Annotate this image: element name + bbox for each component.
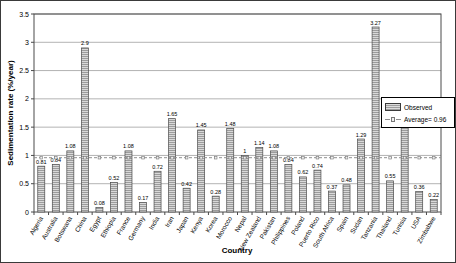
bar-value-label: 3.27 (370, 20, 381, 26)
y-tick-label: 3.5 (19, 11, 29, 18)
average-marker (302, 156, 305, 159)
legend-entry-observed: Observed (385, 101, 451, 113)
average-marker (345, 156, 348, 159)
bar (52, 164, 59, 212)
bar (416, 192, 423, 212)
bar-value-label: 0.55 (385, 173, 396, 179)
x-category-label: Korea (204, 215, 219, 234)
average-marker (389, 156, 392, 159)
bar-value-label: 0.22 (428, 192, 439, 198)
x-category-label: Tunisia (391, 215, 408, 237)
bar-value-label: 0.74 (312, 163, 323, 169)
bar-value-label: 0.62 (298, 169, 309, 175)
y-tick-label: 3 (25, 39, 29, 46)
average-marker (185, 156, 188, 159)
observed-bar-swatch-icon (385, 103, 401, 111)
plot-border (34, 14, 441, 212)
average-marker (55, 156, 58, 159)
x-category-label: China (73, 215, 88, 234)
average-marker (374, 156, 377, 159)
average-marker (331, 156, 334, 159)
average-marker (287, 156, 290, 159)
y-tick-label: 1 (25, 152, 29, 159)
average-marker (316, 156, 319, 159)
average-marker (142, 156, 145, 159)
bar-value-label: 0.08 (94, 200, 105, 206)
y-tick-label: 2 (25, 95, 29, 102)
bar (299, 177, 306, 212)
bar (343, 185, 350, 212)
bar (430, 200, 437, 212)
bar-value-label: 1.08 (268, 143, 279, 149)
bar-value-label: 1.08 (123, 143, 134, 149)
y-tick-label: 2.5 (19, 67, 29, 74)
x-category-label: Iran (163, 215, 175, 229)
average-marker (127, 156, 130, 159)
bar-value-label: 0.81 (36, 159, 47, 165)
average-marker (403, 156, 406, 159)
average-marker (214, 156, 217, 159)
legend-average-label: Average= 0.96 (404, 116, 446, 123)
bar (183, 188, 190, 212)
bar (401, 114, 408, 212)
bar (198, 130, 205, 212)
x-axis-title: Country (222, 246, 253, 255)
bar (96, 207, 103, 212)
bar (38, 166, 45, 212)
y-tick-label: 1.5 (19, 124, 29, 131)
average-marker (273, 156, 276, 159)
average-marker (418, 156, 421, 159)
x-category-label: USA (409, 214, 422, 230)
bar-value-label: 1.45 (196, 122, 207, 128)
average-marker (69, 156, 72, 159)
bar (227, 128, 234, 212)
bar-value-label: 0.36 (414, 184, 425, 190)
bar (67, 151, 74, 212)
bar-value-label: 0.17 (138, 195, 149, 201)
average-marker (98, 156, 101, 159)
bar (285, 164, 292, 212)
plot-area: 00.511.522.533.50.810.841.082.90.080.521… (1, 1, 456, 263)
average-marker (229, 156, 232, 159)
average-marker (243, 156, 246, 159)
bar (212, 196, 219, 212)
y-axis-title: Sedimentation rate (%/year) (6, 60, 15, 165)
bar (140, 202, 147, 212)
bar (358, 139, 365, 212)
legend: Observed Average= 0.96 (381, 97, 455, 128)
legend-observed-label: Observed (404, 104, 432, 111)
average-marker (156, 156, 159, 159)
y-tick-label: 0.5 (19, 180, 29, 187)
bar (81, 48, 88, 212)
bar-value-label: 1.65 (167, 111, 178, 117)
bar (372, 27, 379, 212)
average-marker (84, 156, 87, 159)
bar (169, 119, 176, 212)
average-marker (40, 156, 43, 159)
y-tick-label: 0 (25, 209, 29, 216)
bar (125, 151, 132, 212)
bar-chart: 00.511.522.533.50.810.841.082.90.080.521… (0, 0, 456, 263)
x-category-label: India (147, 215, 160, 231)
legend-entry-average: Average= 0.96 (385, 113, 451, 125)
bar (314, 170, 321, 212)
bar-value-label: 1 (243, 148, 246, 154)
bar (270, 151, 277, 212)
bar-value-label: 0.28 (210, 189, 221, 195)
bar (328, 191, 335, 212)
bar-value-label: 0.42 (181, 181, 192, 187)
bar-value-label: 0.52 (109, 175, 120, 181)
bar-value-label: 0.37 (327, 184, 338, 190)
bar (110, 183, 117, 212)
bar-value-label: 2.9 (81, 40, 89, 46)
average-line-swatch-icon (385, 117, 401, 122)
average-marker (258, 156, 261, 159)
x-category-label: Kenya (189, 215, 205, 235)
average-marker (432, 156, 435, 159)
average-marker (360, 156, 363, 159)
bar (387, 181, 394, 212)
average-marker (200, 156, 203, 159)
bar-value-label: 1.14 (254, 140, 265, 146)
average-marker (113, 156, 116, 159)
bar (154, 171, 161, 212)
